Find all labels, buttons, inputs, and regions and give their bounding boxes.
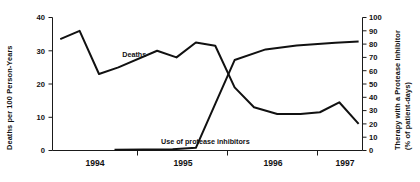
x-axis: 1994 1995 1996 1997 — [53, 151, 363, 169]
y2-tick-label-90: 90 — [369, 27, 377, 36]
y2-axis-title-line1: Therapy with a Protease Inhibitor — [393, 30, 402, 150]
series-line-protease-inhibitors — [115, 41, 359, 149]
y2-tick-label-100: 100 — [369, 13, 382, 22]
y-tick-label-30: 30 — [37, 47, 45, 56]
chart-figure: Deaths per 100 Person-Years 0 10 20 30 4… — [0, 0, 420, 182]
y-tick-label-0: 0 — [41, 146, 45, 155]
y2-tick-label-20: 20 — [369, 120, 377, 129]
y-axis-title: Deaths per 100 Person-Years — [5, 45, 14, 150]
y2-tick-label-10: 10 — [369, 133, 377, 142]
y2-tick-label-70: 70 — [369, 53, 377, 62]
y-tick-label-40: 40 — [37, 13, 45, 22]
y2-tick-label-0: 0 — [369, 146, 373, 155]
x-tick-label-1995: 1995 — [173, 158, 192, 168]
annotation-protease-inhibitors: Use of protease inhibitors — [161, 137, 250, 146]
x-tick-label-1994: 1994 — [85, 158, 104, 168]
y2-tick-label-60: 60 — [369, 67, 377, 76]
y-axis: 0 10 20 30 40 — [37, 13, 53, 155]
x-tick-label-1996: 1996 — [263, 158, 282, 168]
y2-axis-title-line2: (% of patient-days) — [403, 82, 412, 150]
y2-axis: 0 10 20 30 40 50 60 70 80 90 100 — [363, 13, 382, 155]
y2-tick-label-80: 80 — [369, 40, 377, 49]
y2-tick-label-30: 30 — [369, 106, 377, 115]
y-tick-label-10: 10 — [37, 113, 45, 122]
x-tick-label-1997: 1997 — [335, 158, 354, 168]
y-tick-label-20: 20 — [37, 80, 45, 89]
line-chart-svg: Deaths per 100 Person-Years 0 10 20 30 4… — [0, 0, 420, 182]
annotation-deaths: Deaths — [122, 50, 146, 59]
y2-tick-label-40: 40 — [369, 93, 377, 102]
y2-tick-label-50: 50 — [369, 80, 377, 89]
